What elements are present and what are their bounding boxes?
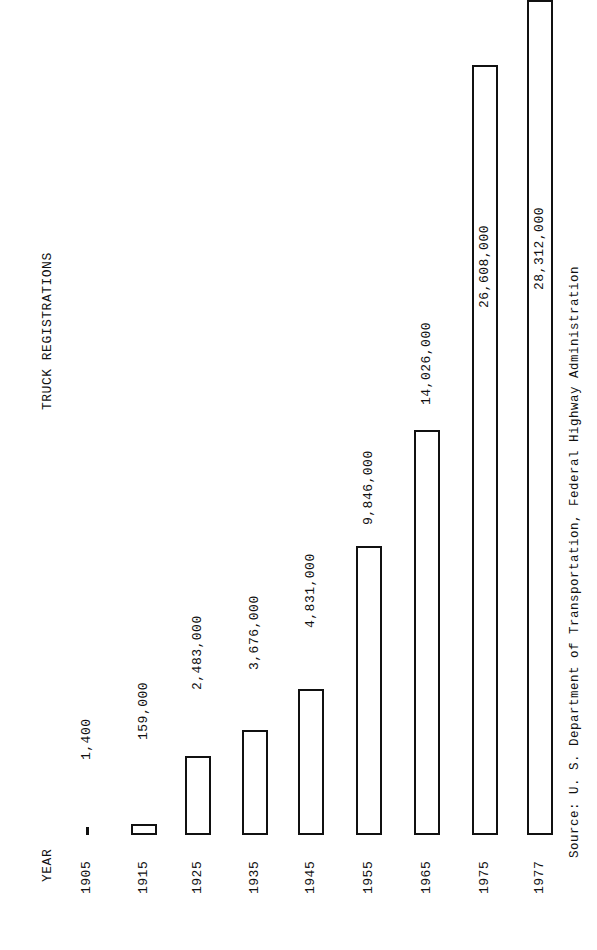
bar-1955	[356, 546, 382, 835]
bar-1975	[472, 65, 498, 835]
year-label: 1945	[304, 861, 318, 894]
year-label: 1915	[137, 861, 151, 894]
value-label: 1,400	[80, 718, 94, 760]
value-label: 3,676,000	[248, 595, 262, 670]
bar-1905	[86, 827, 89, 835]
year-label: 1977	[533, 861, 547, 894]
source-note: Source: U. S. Department of Transportati…	[568, 266, 582, 858]
bar-1915	[131, 824, 157, 835]
year-label: 1975	[478, 861, 492, 894]
bar-1925	[185, 756, 211, 835]
year-label: 1905	[80, 861, 94, 894]
bar-1965	[414, 430, 440, 835]
value-label: 159,000	[137, 682, 151, 740]
value-label: 2,483,000	[191, 615, 205, 690]
year-label: 1955	[362, 861, 376, 894]
bar-1945	[298, 689, 324, 835]
year-label: 1965	[420, 861, 434, 894]
value-label: 26,608,000	[478, 225, 492, 308]
value-label: 28,312,000	[533, 207, 547, 290]
year-label: 1935	[248, 861, 262, 894]
bar-1935	[242, 730, 268, 835]
chart-title: TRUCK REGISTRATIONS	[41, 252, 55, 410]
value-label: 9,846,000	[362, 450, 376, 525]
x-axis-label: YEAR	[41, 849, 55, 882]
value-label: 14,026,000	[420, 322, 434, 405]
year-label: 1925	[191, 861, 205, 894]
value-label: 4,831,000	[304, 553, 318, 628]
bar-1977	[527, 0, 553, 835]
